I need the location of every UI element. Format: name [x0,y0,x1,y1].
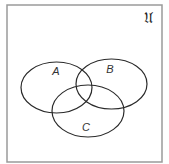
universe-set [7,5,162,162]
set-a-label: A [51,65,59,77]
set-c-label: C [82,121,90,133]
venn-diagram: 𝔘 A B C [0,0,169,164]
universe-label: 𝔘 [144,10,153,26]
set-b-label: B [106,63,113,75]
